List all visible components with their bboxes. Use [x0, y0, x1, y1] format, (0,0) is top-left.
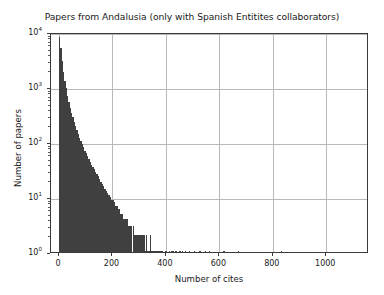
chart-title: Papers from Andalusia (only with Spanish…	[0, 11, 384, 22]
x-tick-label: 0	[38, 259, 78, 268]
y-axis-label: Number of papers	[13, 88, 23, 208]
x-tick-mark	[58, 253, 59, 256]
y-tick-minor	[48, 105, 50, 106]
histogram-bar	[162, 251, 163, 252]
y-tick-minor	[48, 165, 50, 166]
histogram-bars	[51, 34, 367, 252]
x-tick-label: 800	[252, 259, 292, 268]
histogram-bar	[185, 251, 186, 252]
y-tick-minor	[48, 91, 50, 92]
y-tick-minor	[48, 172, 50, 173]
y-tick-minor	[48, 203, 50, 204]
histogram-bar	[209, 251, 210, 252]
y-tick-minor	[48, 201, 50, 202]
histogram-bar	[179, 251, 180, 252]
histogram-bar	[182, 251, 183, 252]
y-tick-minor	[48, 45, 50, 46]
x-tick-label: 1000	[305, 259, 345, 268]
histogram-bar	[166, 251, 167, 252]
y-tick-minor	[48, 117, 50, 118]
histogram-bar	[150, 235, 151, 252]
histogram-bar	[169, 251, 170, 252]
y-tick-mark	[47, 33, 50, 34]
y-tick-minor	[48, 181, 50, 182]
x-tick-mark	[272, 253, 273, 256]
y-tick-mark	[47, 88, 50, 89]
y-tick-minor	[48, 71, 50, 72]
y-tick-minor	[48, 207, 50, 208]
y-tick-minor	[48, 126, 50, 127]
y-tick-minor	[48, 148, 50, 149]
histogram-bar	[194, 251, 195, 252]
y-tick-label: 104	[8, 28, 42, 37]
histogram-bar	[238, 251, 239, 252]
histogram-bar	[175, 251, 176, 252]
y-tick-minor	[48, 152, 50, 153]
y-tick-label: 100	[8, 248, 42, 257]
y-tick-minor	[48, 227, 50, 228]
y-tick-minor	[48, 55, 50, 56]
histogram-bar	[143, 235, 144, 252]
y-tick-minor	[48, 146, 50, 147]
y-tick-minor	[48, 42, 50, 43]
x-tick-label: 400	[145, 259, 185, 268]
histogram-bar	[199, 251, 200, 252]
histogram-bar	[205, 251, 206, 252]
histogram-bar	[173, 251, 174, 252]
y-tick-minor	[48, 236, 50, 237]
y-tick-minor	[48, 38, 50, 39]
x-tick-mark	[165, 253, 166, 256]
y-tick-mark	[47, 198, 50, 199]
histogram-bar	[223, 251, 224, 252]
y-tick-minor	[48, 220, 50, 221]
y-tick-minor	[48, 110, 50, 111]
y-tick-minor	[48, 50, 50, 51]
x-tick-label: 600	[198, 259, 238, 268]
y-tick-minor	[48, 155, 50, 156]
x-axis-label: Number of cites	[50, 274, 368, 284]
histogram-figure: Papers from Andalusia (only with Spanish…	[0, 0, 384, 295]
y-tick-minor	[48, 215, 50, 216]
y-tick-minor	[48, 100, 50, 101]
y-tick-minor	[48, 62, 50, 63]
y-tick-minor	[48, 93, 50, 94]
y-tick-mark	[47, 143, 50, 144]
histogram-bar	[189, 251, 190, 252]
y-tick-minor	[48, 210, 50, 211]
y-tick-mark	[47, 253, 50, 254]
histogram-bar	[281, 251, 282, 252]
x-tick-mark	[218, 253, 219, 256]
y-tick-minor	[48, 160, 50, 161]
y-tick-minor	[48, 97, 50, 98]
histogram-bar	[146, 235, 147, 252]
x-tick-mark	[111, 253, 112, 256]
plot-area	[50, 33, 368, 253]
x-tick-label: 200	[91, 259, 131, 268]
y-tick-minor	[48, 36, 50, 37]
x-tick-mark	[325, 253, 326, 256]
